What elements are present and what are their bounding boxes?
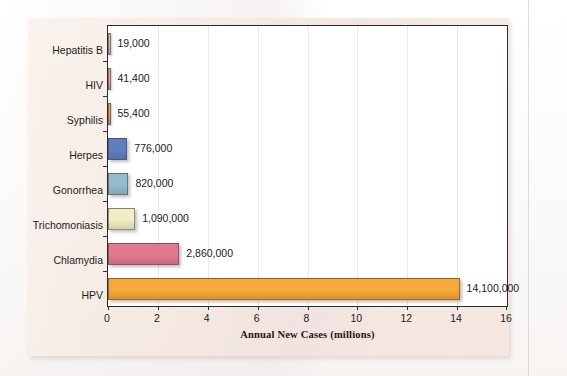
value-axis-tick-labels: 0246810121416 xyxy=(107,312,508,326)
category-axis-label: Herpes xyxy=(69,149,103,161)
data-value-label: 55,400 xyxy=(118,107,150,119)
bar xyxy=(108,138,127,160)
category-axis-tick xyxy=(103,201,108,202)
bar xyxy=(108,278,460,300)
data-value-label: 41,400 xyxy=(118,72,150,84)
gridline xyxy=(357,26,358,306)
category-axis-tick xyxy=(103,166,108,167)
value-axis-tick xyxy=(457,306,458,310)
data-value-label: 14,100,000 xyxy=(467,282,520,294)
bar xyxy=(108,68,111,90)
bar xyxy=(108,243,179,265)
value-axis-tick-label: 6 xyxy=(254,312,260,324)
plot-area xyxy=(107,25,508,307)
value-axis-tick xyxy=(506,306,507,310)
page-gutter-line xyxy=(528,0,529,376)
data-value-label: 776,000 xyxy=(134,142,172,154)
category-axis-tick xyxy=(103,61,108,62)
value-axis-tick xyxy=(208,306,209,310)
value-axis-tick-label: 10 xyxy=(351,312,363,324)
value-axis-tick xyxy=(158,306,159,310)
value-axis-tick xyxy=(108,306,109,310)
category-axis-tick xyxy=(103,271,108,272)
category-axis-labels: Hepatitis BHIVSyphilisHerpesGonorrheaTri… xyxy=(28,25,103,307)
value-axis-tick-label: 8 xyxy=(304,312,310,324)
value-axis-tick xyxy=(258,306,259,310)
value-axis-tick-label: 12 xyxy=(400,312,412,324)
category-axis-tick xyxy=(103,131,108,132)
category-axis-tick xyxy=(103,96,108,97)
gridline xyxy=(208,26,209,306)
value-axis-tick-label: 0 xyxy=(104,312,110,324)
figure-panel: Hepatitis BHIVSyphilisHerpesGonorrheaTri… xyxy=(28,18,509,356)
data-value-label: 2,860,000 xyxy=(186,247,233,259)
value-axis-tick-label: 2 xyxy=(154,312,160,324)
category-axis-label: Hepatitis B xyxy=(52,44,103,56)
bar xyxy=(108,173,128,195)
value-axis-tick xyxy=(407,306,408,310)
category-axis-label: Gonorrhea xyxy=(53,184,103,196)
value-axis-tick xyxy=(308,306,309,310)
value-axis-tick-label: 16 xyxy=(500,312,512,324)
data-value-label: 1,090,000 xyxy=(142,212,189,224)
bar xyxy=(108,33,111,55)
x-axis-title: Annual New Cases (millions) xyxy=(107,329,508,340)
value-axis-tick-label: 14 xyxy=(450,312,462,324)
value-axis-tick-label: 4 xyxy=(204,312,210,324)
category-axis-label: HPV xyxy=(81,289,103,301)
category-axis-tick xyxy=(103,236,108,237)
category-axis-label: Trichomoniasis xyxy=(33,219,103,231)
bar xyxy=(108,208,135,230)
category-axis-label: Syphilis xyxy=(67,114,103,126)
bar xyxy=(108,103,111,125)
data-value-label: 19,000 xyxy=(118,37,150,49)
category-axis-label: HIV xyxy=(85,79,103,91)
value-axis-tick xyxy=(357,306,358,310)
category-axis-label: Chlamydia xyxy=(53,254,103,266)
data-value-label: 820,000 xyxy=(135,177,173,189)
gridline xyxy=(308,26,309,306)
gridline xyxy=(407,26,408,306)
gridline xyxy=(457,26,458,306)
gridline xyxy=(258,26,259,306)
